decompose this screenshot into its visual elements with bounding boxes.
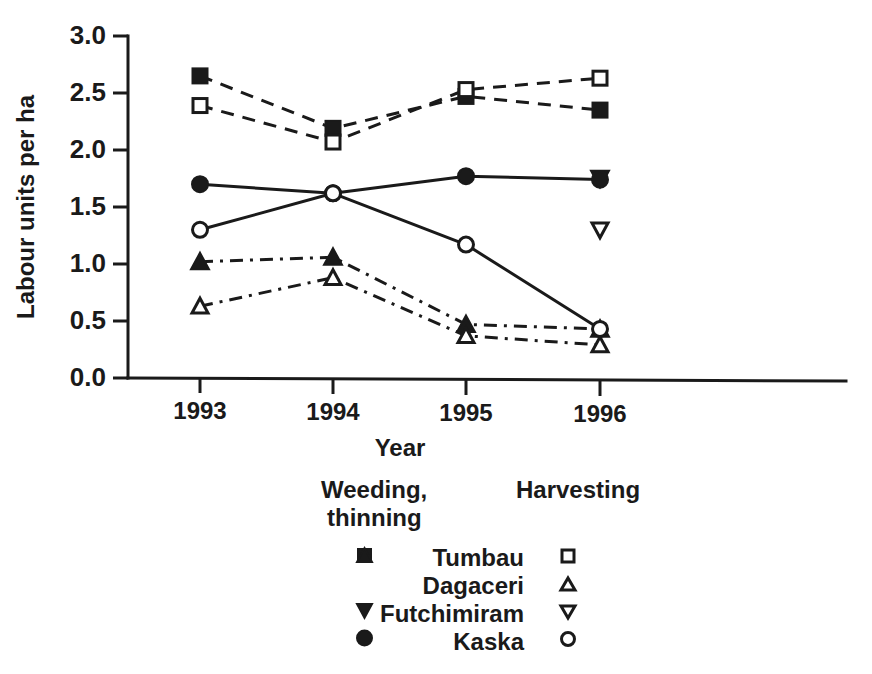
open-up-triangle-marker xyxy=(192,298,208,313)
legend-heading-weeding-line2: thinning xyxy=(327,504,422,531)
y-axis-title: Labour units per ha xyxy=(12,94,39,319)
legend: Weeding, thinning Harvesting Tumbau Daga… xyxy=(321,476,640,655)
legend-label-tumbau: Tumbau xyxy=(432,544,524,571)
filled-circle-marker xyxy=(592,172,608,188)
series-tumbau-harvesting xyxy=(193,71,607,149)
series-line-6 xyxy=(200,176,600,193)
series-line-7 xyxy=(200,193,600,329)
open-up-triangle-icon xyxy=(561,578,575,590)
open-circle-marker xyxy=(326,186,341,201)
filled-circle-icon xyxy=(357,631,372,646)
y-axis: 3.0 2.5 2.0 1.5 1.0 0.5 0.0 Labour units… xyxy=(12,20,128,392)
x-axis-line xyxy=(128,378,846,381)
x-tick-label-1994: 1994 xyxy=(306,398,360,425)
open-square-marker xyxy=(593,71,607,85)
series-kaska-weeding-thinning xyxy=(192,168,608,201)
legend-row-kaska[interactable]: Kaska xyxy=(357,628,575,655)
open-up-triangle-marker xyxy=(325,270,341,285)
open-circle-marker xyxy=(459,237,474,252)
series-futchimiram-harvesting xyxy=(592,223,608,238)
legend-heading-harvesting: Harvesting xyxy=(516,476,640,503)
legend-row-futchimiram[interactable]: Futchimiram xyxy=(357,600,575,627)
y-tick-label-1-5: 1.5 xyxy=(70,191,106,221)
legend-heading-weeding-line1: Weeding, xyxy=(321,476,427,503)
open-circle-marker xyxy=(193,222,208,237)
filled-square-marker xyxy=(193,68,208,83)
open-down-triangle-icon xyxy=(561,606,575,618)
filled-circle-marker xyxy=(192,176,208,192)
filled-circle-marker xyxy=(458,168,474,184)
legend-label-kaska: Kaska xyxy=(453,628,524,655)
plot-data-layer xyxy=(191,68,609,351)
series-tumbau-weeding-thinning xyxy=(193,68,608,135)
y-tick-label-3-0: 3.0 xyxy=(70,20,106,50)
open-square-marker xyxy=(326,135,340,149)
x-tick-label-1995: 1995 xyxy=(439,399,492,426)
x-tick-label-1993: 1993 xyxy=(173,397,226,424)
legend-label-dagaceri: Dagaceri xyxy=(423,572,524,599)
filled-square-marker xyxy=(593,103,608,118)
open-up-triangle-marker xyxy=(592,337,608,352)
series-kaska-harvesting xyxy=(193,186,608,337)
open-square-icon xyxy=(562,550,574,562)
y-tick-label-0-5: 0.5 xyxy=(70,305,106,335)
open-down-triangle-marker xyxy=(592,223,608,238)
chart-svg: 3.0 2.5 2.0 1.5 1.0 0.5 0.0 Labour units… xyxy=(0,0,872,674)
series-line-1 xyxy=(200,78,600,142)
x-axis: 1993 1994 1995 1996 Year xyxy=(128,378,846,461)
y-tick-label-0-0: 0.0 xyxy=(70,362,106,392)
legend-row-tumbau[interactable]: Tumbau xyxy=(358,544,574,571)
legend-label-futchimiram: Futchimiram xyxy=(380,600,524,627)
filled-down-triangle-icon xyxy=(357,604,372,618)
open-square-marker xyxy=(459,83,473,97)
y-tick-label-1-0: 1.0 xyxy=(70,248,106,278)
x-axis-title: Year xyxy=(375,434,426,461)
series-dagaceri-harvesting xyxy=(192,270,608,352)
y-tick-label-2-0: 2.0 xyxy=(70,134,106,164)
x-tick-label-1996: 1996 xyxy=(573,400,626,427)
open-circle-icon xyxy=(562,633,575,646)
y-tick-label-2-5: 2.5 xyxy=(70,77,106,107)
open-square-marker xyxy=(193,99,207,113)
series-dagaceri-weeding-thinning xyxy=(191,248,609,336)
open-circle-marker xyxy=(593,321,608,336)
series-line-3 xyxy=(200,278,600,345)
chart-figure: 3.0 2.5 2.0 1.5 1.0 0.5 0.0 Labour units… xyxy=(0,0,872,674)
